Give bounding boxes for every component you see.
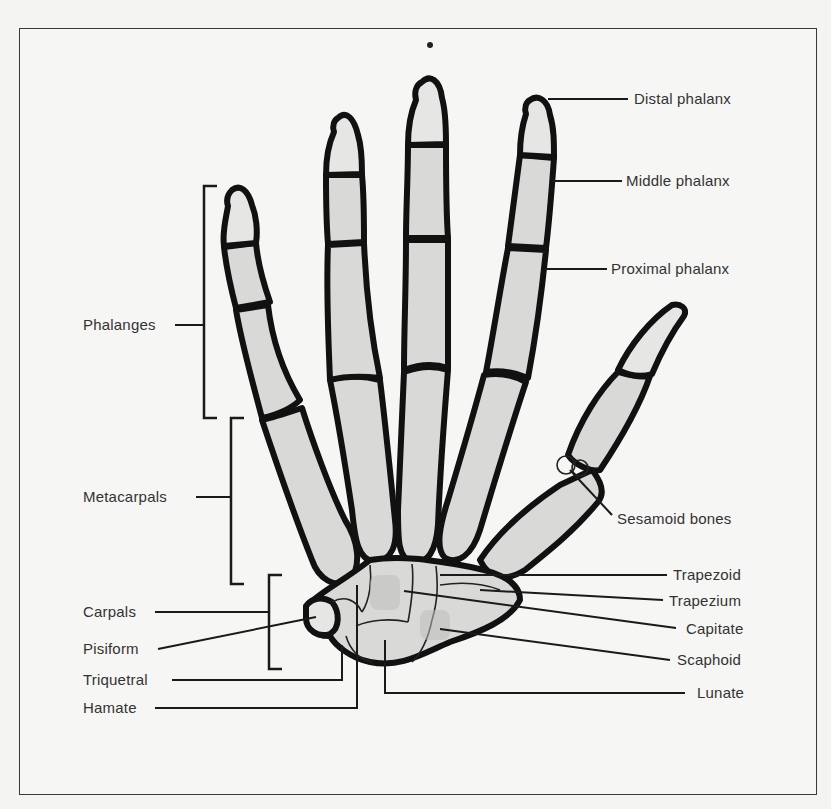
label-scaphoid: Scaphoid xyxy=(677,651,741,669)
label-middle-phalanx: Middle phalanx xyxy=(626,172,730,190)
label-triquetral: Triquetral xyxy=(83,671,148,689)
pisiform-leader xyxy=(158,617,316,649)
metacarpals-bracket xyxy=(231,418,244,584)
label-proximal-phalanx: Proximal phalanx xyxy=(611,260,729,278)
label-distal-phalanx: Distal phalanx xyxy=(634,90,731,108)
label-hamate: Hamate xyxy=(83,699,137,717)
label-capitate: Capitate xyxy=(686,620,743,638)
triquetral-leader xyxy=(172,645,342,680)
label-pisiform: Pisiform xyxy=(83,640,139,658)
label-trapezium: Trapezium xyxy=(669,592,741,610)
scaphoid-leader xyxy=(440,629,670,660)
label-sesamoid-bones: Sesamoid bones xyxy=(617,510,732,528)
dot-mark xyxy=(427,42,433,48)
phalanges-bracket xyxy=(204,186,217,418)
label-phalanges: Phalanges xyxy=(83,316,156,334)
label-metacarpals: Metacarpals xyxy=(83,488,167,506)
label-trapezoid: Trapezoid xyxy=(673,566,741,584)
label-lunate: Lunate xyxy=(697,684,744,702)
index-finger xyxy=(439,98,554,560)
label-carpals: Carpals xyxy=(83,603,136,621)
carpals-bracket xyxy=(269,575,282,669)
middle-finger xyxy=(398,79,448,563)
